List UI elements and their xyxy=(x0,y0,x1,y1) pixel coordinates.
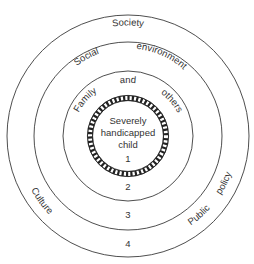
number-1: 1 xyxy=(125,153,130,164)
label-center-line2: handicapped xyxy=(101,127,155,138)
number-2: 2 xyxy=(125,181,130,192)
label-center-line3: child xyxy=(118,139,138,150)
label-policy: policy xyxy=(213,170,234,196)
concentric-circles-diagram: Society Social environment Family and ot… xyxy=(0,0,254,264)
label-center-line1: Severely xyxy=(110,115,147,126)
number-3: 3 xyxy=(125,209,130,220)
number-4: 4 xyxy=(125,238,130,249)
label-social: Social xyxy=(71,45,100,68)
label-society: Society xyxy=(111,16,144,28)
label-public: Public xyxy=(185,202,211,227)
label-and: and xyxy=(119,74,136,86)
label-environment: environment xyxy=(136,40,190,72)
